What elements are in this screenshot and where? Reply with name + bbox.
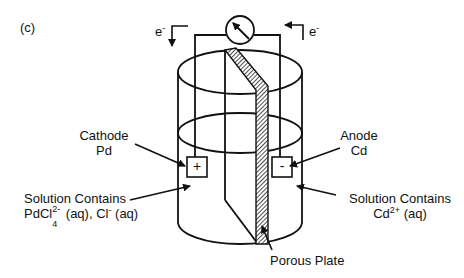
cathode-sign: + bbox=[187, 159, 207, 174]
panel-label: (c) bbox=[20, 20, 35, 35]
electron-charge: - bbox=[162, 23, 165, 33]
left-solution-line1: Solution Contains bbox=[24, 191, 138, 206]
anode-sign: - bbox=[272, 159, 292, 174]
porous-plate bbox=[225, 48, 268, 244]
cylinder-bottom bbox=[178, 222, 302, 244]
anode-title: Anode bbox=[334, 128, 384, 143]
left-solution-label: Solution Contains PdCl2-4 (aq), Cl- (aq) bbox=[24, 191, 138, 221]
cathode-title: Cathode bbox=[74, 128, 134, 143]
electron-charge: - bbox=[316, 23, 319, 33]
right-solution-label: Solution Contains Cd2+ (aq) bbox=[340, 191, 460, 221]
electron-arrow-right bbox=[285, 25, 303, 40]
anode-label: Anode Cd bbox=[334, 128, 384, 158]
electron-label-left: e- bbox=[155, 24, 165, 39]
electron-label-right: e- bbox=[309, 24, 319, 39]
cathode-metal: Pd bbox=[74, 143, 134, 158]
anode-pointer bbox=[290, 148, 340, 166]
electrochemical-cell-diagram bbox=[0, 0, 464, 278]
electron-arrow-left bbox=[172, 26, 188, 46]
liquid-surface bbox=[178, 113, 302, 153]
left-solution-species: PdCl2-4 (aq), Cl- (aq) bbox=[24, 206, 138, 221]
right-solution-species: Cd2+ (aq) bbox=[340, 206, 460, 221]
left-solution-pointer bbox=[130, 186, 190, 200]
anode-metal: Cd bbox=[334, 143, 384, 158]
porous-plate-label: Porous Plate bbox=[270, 253, 344, 268]
cathode-label: Cathode Pd bbox=[74, 128, 134, 158]
